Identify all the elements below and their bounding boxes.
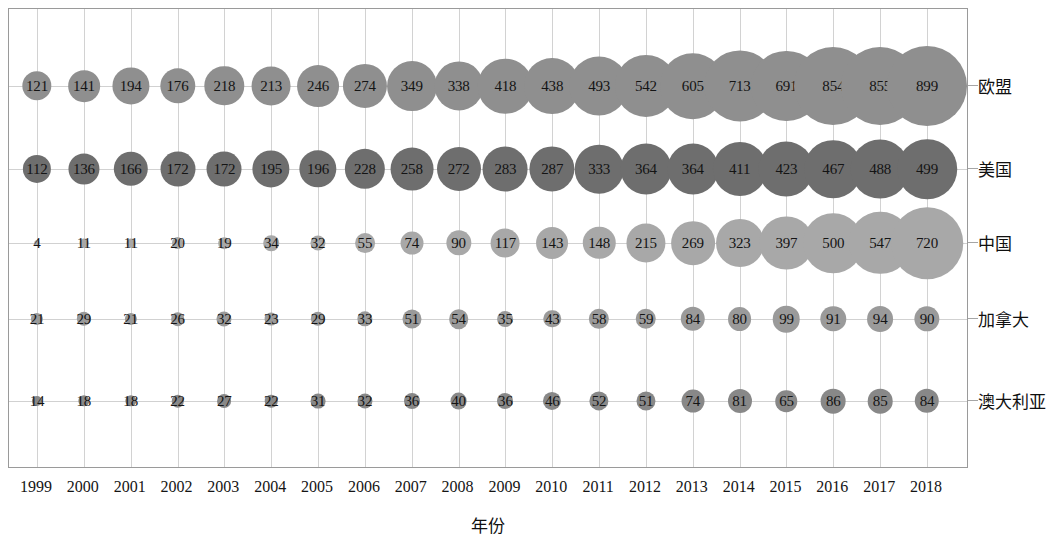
bubble[interactable] bbox=[357, 393, 372, 408]
bubble[interactable] bbox=[498, 311, 514, 327]
bubble[interactable] bbox=[491, 229, 520, 258]
bubble[interactable] bbox=[626, 223, 665, 262]
bubble[interactable] bbox=[751, 51, 821, 121]
bubble[interactable] bbox=[400, 232, 423, 255]
bubble[interactable] bbox=[404, 393, 420, 409]
bubble[interactable] bbox=[68, 70, 100, 102]
bubble[interactable] bbox=[32, 396, 42, 406]
bubble[interactable] bbox=[299, 150, 336, 187]
bubble[interactable] bbox=[524, 58, 580, 114]
bubble[interactable] bbox=[402, 309, 421, 328]
bubble[interactable] bbox=[113, 152, 147, 186]
bubble[interactable] bbox=[544, 310, 561, 327]
bubble[interactable] bbox=[357, 311, 372, 326]
bubble[interactable] bbox=[79, 239, 88, 248]
bubble[interactable] bbox=[449, 309, 469, 329]
bubble[interactable] bbox=[497, 393, 513, 409]
bubble[interactable] bbox=[849, 212, 911, 274]
bubble[interactable] bbox=[263, 235, 279, 251]
bubble[interactable] bbox=[22, 71, 51, 100]
bubble[interactable] bbox=[760, 216, 813, 269]
bubble[interactable] bbox=[219, 237, 231, 249]
bubble[interactable] bbox=[589, 309, 609, 329]
bubble[interactable] bbox=[31, 313, 43, 325]
bubble[interactable] bbox=[543, 392, 561, 410]
bubble[interactable] bbox=[536, 227, 568, 259]
bubble[interactable] bbox=[681, 390, 704, 413]
bubble[interactable] bbox=[297, 65, 339, 107]
bubble[interactable] bbox=[160, 152, 195, 187]
bubble[interactable] bbox=[171, 395, 184, 408]
bubble[interactable] bbox=[868, 389, 893, 414]
bubble[interactable] bbox=[78, 395, 89, 406]
bubble[interactable] bbox=[478, 59, 533, 114]
bubble[interactable] bbox=[172, 237, 184, 249]
bubble[interactable] bbox=[217, 394, 231, 408]
bubble[interactable] bbox=[575, 145, 624, 194]
bubble[interactable] bbox=[589, 391, 608, 410]
bubble[interactable] bbox=[713, 142, 767, 196]
bubble[interactable] bbox=[171, 312, 185, 326]
bubble[interactable] bbox=[620, 144, 671, 195]
bubble[interactable] bbox=[615, 55, 677, 117]
bubble[interactable] bbox=[390, 148, 433, 191]
bubble[interactable] bbox=[667, 144, 718, 195]
bubble[interactable] bbox=[660, 53, 726, 119]
bubble[interactable] bbox=[355, 233, 375, 253]
bubble[interactable] bbox=[583, 227, 615, 259]
bubble[interactable] bbox=[345, 149, 385, 189]
bubble[interactable] bbox=[207, 152, 242, 187]
bubble[interactable] bbox=[776, 390, 798, 412]
bubble[interactable] bbox=[530, 146, 575, 191]
bubble[interactable] bbox=[205, 66, 244, 105]
bubble[interactable] bbox=[804, 140, 862, 198]
bubble[interactable] bbox=[851, 140, 910, 199]
bubble[interactable] bbox=[311, 312, 325, 326]
bubble[interactable] bbox=[887, 46, 967, 126]
bubble[interactable] bbox=[387, 61, 437, 111]
bubble[interactable] bbox=[897, 139, 957, 199]
bubble[interactable] bbox=[112, 67, 149, 104]
bubble[interactable] bbox=[841, 47, 919, 125]
bubble[interactable] bbox=[434, 61, 483, 110]
bubble[interactable] bbox=[716, 219, 764, 267]
bubble[interactable] bbox=[915, 389, 939, 413]
bubble[interactable] bbox=[125, 395, 136, 406]
bubble[interactable] bbox=[125, 313, 137, 325]
bubble[interactable] bbox=[759, 142, 814, 197]
bubble[interactable] bbox=[681, 307, 705, 331]
bubble[interactable] bbox=[794, 47, 872, 125]
bubble[interactable] bbox=[728, 389, 752, 413]
bubble[interactable] bbox=[311, 394, 326, 409]
bubble[interactable] bbox=[68, 153, 99, 184]
bubble[interactable] bbox=[217, 311, 232, 326]
bubble[interactable] bbox=[126, 239, 135, 248]
bubble[interactable] bbox=[34, 240, 39, 245]
series-label-加拿大[interactable]: 加拿大 bbox=[978, 306, 1029, 331]
bubble[interactable] bbox=[773, 306, 800, 333]
bubble[interactable] bbox=[437, 147, 481, 191]
bubble[interactable] bbox=[265, 395, 278, 408]
bubble[interactable] bbox=[77, 312, 91, 326]
bubble[interactable] bbox=[891, 207, 963, 279]
bubble[interactable] bbox=[671, 221, 715, 265]
series-label-澳大利亚[interactable]: 澳大利亚 bbox=[978, 388, 1046, 413]
bubble[interactable] bbox=[253, 150, 290, 187]
bubble[interactable] bbox=[728, 307, 752, 331]
bubble[interactable] bbox=[311, 235, 326, 250]
bubble[interactable] bbox=[450, 393, 467, 410]
bubble[interactable] bbox=[803, 213, 863, 273]
bubble[interactable] bbox=[914, 306, 939, 331]
bubble[interactable] bbox=[821, 306, 846, 331]
series-label-美国[interactable]: 美国 bbox=[978, 156, 1012, 181]
bubble[interactable] bbox=[821, 389, 846, 414]
series-label-中国[interactable]: 中国 bbox=[978, 230, 1012, 255]
bubble[interactable] bbox=[636, 309, 656, 329]
bubble[interactable] bbox=[636, 391, 655, 410]
bubble[interactable] bbox=[23, 155, 51, 183]
bubble[interactable] bbox=[160, 68, 195, 103]
series-label-欧盟[interactable]: 欧盟 bbox=[978, 73, 1012, 98]
bubble[interactable] bbox=[483, 147, 528, 192]
bubble[interactable] bbox=[569, 56, 628, 115]
bubble[interactable] bbox=[252, 67, 291, 106]
